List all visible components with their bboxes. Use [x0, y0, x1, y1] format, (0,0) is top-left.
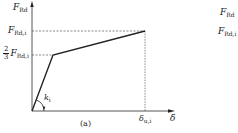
- x-axis-label: δ: [170, 114, 175, 123]
- fraction-two-thirds: 23: [3, 46, 9, 61]
- stiffness-angle-arc: [37, 100, 45, 111]
- x-tick-sub: u,i: [144, 117, 152, 124]
- y-axis-arrow-icon: [30, 1, 33, 7]
- right-label-sub: Rd,i: [224, 30, 236, 37]
- force-displacement-diagram: [0, 0, 238, 133]
- y-axis-label-sub: Rd: [19, 6, 27, 13]
- angle-arrow-icon: [43, 107, 46, 111]
- y-tick-frd-i: FRd,i: [8, 26, 26, 36]
- right-label-frd-i: FRd,i: [218, 27, 236, 37]
- figure-caption: (a): [80, 120, 91, 128]
- y-axis-label: FRd: [13, 3, 28, 13]
- y-tick-sub: Rd,i: [14, 29, 26, 36]
- y-tick-sub: Rd,i: [17, 52, 29, 59]
- stiffness-label-sub: i: [49, 96, 51, 103]
- fraction-denominator: 3: [3, 54, 9, 61]
- y-tick-two-thirds-frd-i: 23FRd,i: [3, 46, 29, 61]
- x-tick-delta-u-i: δu,i: [139, 115, 152, 124]
- right-label-frd: FRd: [220, 8, 235, 18]
- stiffness-label: ki: [44, 94, 51, 103]
- right-label-sub: Rd: [226, 11, 234, 18]
